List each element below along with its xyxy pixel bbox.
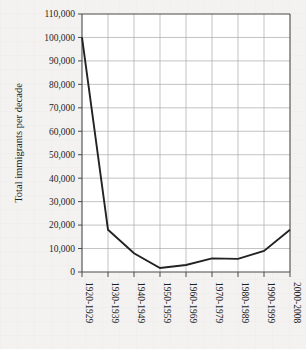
x-tick-label: 1980-1989 <box>240 282 250 323</box>
x-tick-label: 1940-1949 <box>136 282 146 323</box>
y-tick-label: 90,000 <box>49 56 75 66</box>
y-tick-label: 60,000 <box>49 127 75 137</box>
chart-canvas: 010,00020,00030,00040,00050,00060,00070,… <box>0 0 306 349</box>
y-tick-label: 10,000 <box>49 244 75 254</box>
y-tick-label: 100,000 <box>44 33 75 43</box>
x-tick-label: 1920-1929 <box>84 282 94 323</box>
y-tick-label: 50,000 <box>49 150 75 160</box>
x-tick-label: 1950-1959 <box>162 282 172 323</box>
y-axis-ticks-group: 010,00020,00030,00040,00050,00060,00070,… <box>44 9 82 277</box>
y-tick-label: 80,000 <box>49 80 75 90</box>
y-tick-label: 70,000 <box>49 103 75 113</box>
y-tick-label: 110,000 <box>44 9 75 19</box>
y-tick-label: 20,000 <box>49 220 75 230</box>
x-tick-label: 1990-1999 <box>266 282 276 323</box>
x-tick-label: 2000-2008 <box>292 282 302 323</box>
x-axis-ticks-group: 1920-19291930-19391940-19491950-19591960… <box>82 272 302 323</box>
x-tick-label: 1970-1979 <box>214 282 224 323</box>
y-tick-label: 40,000 <box>49 174 75 184</box>
y-tick-label: 0 <box>70 267 75 277</box>
x-tick-label: 1930-1939 <box>110 282 120 323</box>
y-tick-label: 30,000 <box>49 197 75 207</box>
y-axis-title: Total immigrants per decade <box>13 83 24 203</box>
x-tick-label: 1960-1969 <box>188 282 198 323</box>
line-chart-figure: 010,00020,00030,00040,00050,00060,00070,… <box>0 0 306 349</box>
